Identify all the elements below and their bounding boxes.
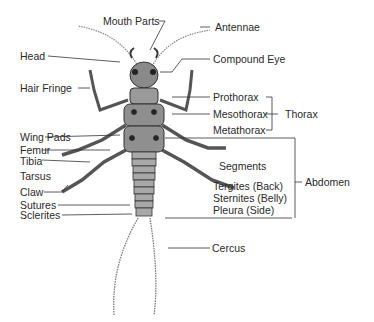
- label-wing-pads: Wing Pads: [20, 131, 71, 143]
- label-sclerites: Sclerites: [20, 209, 60, 221]
- insect-diagram: [0, 0, 374, 322]
- label-compound-eye: Compound Eye: [213, 53, 285, 65]
- label-tarsus: Tarsus: [20, 170, 51, 182]
- thorax-drawing: [124, 88, 164, 152]
- label-hair-fringe: Hair Fringe: [20, 82, 72, 94]
- label-antennae: Antennae: [215, 21, 260, 33]
- label-metathorax: Metathorax: [213, 124, 266, 136]
- cerci-drawing: [114, 218, 156, 315]
- head-drawing: [130, 48, 158, 88]
- label-mesothorax: Mesothorax: [213, 108, 268, 120]
- label-tergites: Tergites (Back): [213, 180, 283, 192]
- label-abdomen: Abdomen: [305, 176, 350, 188]
- label-sternites: Sternites (Belly): [213, 192, 287, 204]
- label-prothorax: Prothorax: [213, 91, 259, 103]
- label-thorax: Thorax: [285, 108, 318, 120]
- label-head: Head: [20, 50, 45, 62]
- label-cercus: Cercus: [212, 242, 245, 254]
- label-segments: Segments: [219, 160, 266, 172]
- abdomen-drawing: [132, 152, 156, 216]
- label-tibia: Tibia: [20, 155, 42, 167]
- label-mouth-parts: Mouth Parts: [103, 15, 160, 27]
- label-claw: Claw: [20, 186, 43, 198]
- label-pleura: Pleura (Side): [213, 204, 274, 216]
